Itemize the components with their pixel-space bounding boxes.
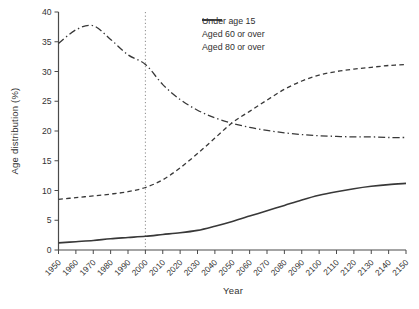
y-axis-title: Age distribution (%) [9, 88, 20, 175]
legend-row: Aged 80 or over [202, 42, 265, 52]
x-axis-title: Year [223, 285, 243, 296]
x-tick-label: 2030 [182, 257, 202, 277]
series-line-aged-80-or-over [59, 183, 407, 243]
legend-label: Aged 80 or over [202, 42, 265, 52]
y-tick-label: 20 [42, 126, 52, 136]
y-tick-label: 25 [42, 96, 52, 106]
y-tick-label: 35 [42, 37, 52, 47]
x-tick-label: 2110 [321, 257, 341, 277]
legend-label: Aged 60 or over [202, 29, 265, 39]
y-tick-label: 5 [47, 215, 52, 225]
x-tick-label: 1950 [43, 257, 63, 277]
x-tick-label: 2040 [199, 257, 219, 277]
x-tick-label: 2060 [234, 257, 254, 277]
y-tick-label: 30 [42, 67, 52, 77]
x-tick-label: 1970 [77, 257, 97, 277]
x-tick-label: 1960 [60, 257, 80, 277]
legend: Under age 15Aged 60 or overAged 80 or ov… [202, 16, 265, 52]
x-tick-label: 1980 [95, 257, 115, 277]
x-tick-label: 2100 [303, 257, 323, 277]
x-tick-label: 2080 [269, 257, 289, 277]
y-tick-label: 15 [42, 156, 52, 166]
age-distribution-chart: 0510152025303540195019601970198019902000… [0, 0, 419, 309]
series-line-aged-60-or-over [59, 64, 407, 199]
x-tick-label: 2130 [355, 257, 375, 277]
x-tick-label: 2090 [286, 257, 306, 277]
x-tick-label: 1990 [112, 257, 132, 277]
legend-row: Aged 60 or over [202, 29, 265, 39]
y-tick-label: 40 [42, 7, 52, 17]
legend-solid-line-icon [202, 16, 222, 24]
x-tick-label: 2150 [390, 257, 410, 277]
x-tick-label: 2120 [338, 257, 358, 277]
x-tick-label: 2000 [130, 257, 150, 277]
x-tick-label: 2140 [373, 257, 393, 277]
x-tick-label: 2050 [216, 257, 236, 277]
x-tick-label: 2070 [251, 257, 271, 277]
x-tick-label: 2020 [164, 257, 184, 277]
x-tick-label: 2010 [147, 257, 167, 277]
y-tick-label: 0 [47, 245, 52, 255]
y-tick-label: 10 [42, 186, 52, 196]
